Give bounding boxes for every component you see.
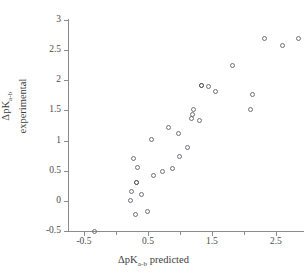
x-axis-line bbox=[68, 231, 304, 232]
data-point bbox=[139, 192, 144, 197]
data-point bbox=[135, 165, 140, 170]
plot-area bbox=[68, 20, 304, 231]
x-tick-label: 1.5 bbox=[192, 237, 232, 247]
data-point bbox=[190, 112, 195, 117]
data-point bbox=[134, 180, 139, 185]
data-point bbox=[230, 63, 235, 68]
data-point bbox=[92, 229, 97, 234]
x-axis-title: ΔpKa-b predicted bbox=[0, 254, 307, 270]
y-axis-title: ΔpKa-b experimental bbox=[0, 46, 28, 166]
data-point bbox=[199, 83, 204, 88]
y-tick-label: -0.5 bbox=[21, 226, 61, 236]
data-point bbox=[213, 89, 218, 94]
x-tick-label: 2.5 bbox=[256, 237, 296, 247]
data-point bbox=[296, 36, 301, 41]
data-point bbox=[189, 116, 194, 121]
data-point bbox=[145, 209, 150, 214]
y-axis-title-subscript: a-b bbox=[6, 91, 14, 101]
data-point bbox=[131, 156, 136, 161]
data-point bbox=[160, 169, 165, 174]
data-point bbox=[191, 107, 196, 112]
y-tick-mark bbox=[64, 231, 68, 232]
data-point bbox=[250, 92, 255, 97]
data-point bbox=[185, 145, 190, 150]
data-point bbox=[262, 36, 267, 41]
x-axis-title-suffix: predicted bbox=[147, 254, 189, 265]
data-point bbox=[149, 137, 154, 142]
data-point bbox=[166, 125, 171, 130]
data-point bbox=[128, 198, 133, 203]
x-axis-title-prefix: ΔpK bbox=[118, 254, 138, 265]
y-tick-label: 0 bbox=[21, 196, 61, 206]
x-minor-tick-mark bbox=[244, 232, 245, 235]
y-axis-title-line2: experimental bbox=[17, 46, 29, 166]
data-point bbox=[177, 154, 182, 159]
x-axis-title-subscript: a-b bbox=[138, 260, 148, 268]
data-point bbox=[197, 118, 202, 123]
x-tick-label: -0.5 bbox=[64, 237, 104, 247]
data-point bbox=[280, 43, 285, 48]
data-point bbox=[206, 84, 211, 89]
scatter-plot-figure: -0.500.511.522.53 -0.50.51.52.5 ΔpKa-b e… bbox=[0, 0, 307, 280]
data-point bbox=[151, 173, 156, 178]
data-point bbox=[170, 166, 175, 171]
data-point bbox=[129, 189, 134, 194]
x-minor-tick-mark bbox=[116, 232, 117, 235]
data-point bbox=[133, 212, 138, 217]
data-point bbox=[248, 107, 253, 112]
x-tick-label: 0.5 bbox=[128, 237, 168, 247]
y-tick-label: 0.5 bbox=[21, 166, 61, 176]
y-axis-title-prefix: ΔpK bbox=[0, 101, 11, 121]
data-point bbox=[176, 131, 181, 136]
y-tick-label: 3 bbox=[21, 15, 61, 25]
x-minor-tick-mark bbox=[180, 232, 181, 235]
